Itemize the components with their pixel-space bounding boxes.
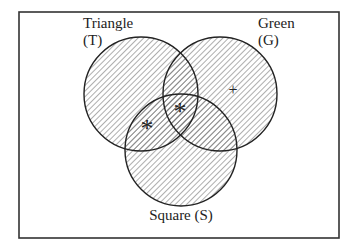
green-label: Green	[258, 15, 295, 31]
triangle-label: Triangle	[83, 15, 134, 31]
triangle-abbrev-label: (T)	[83, 32, 102, 49]
asterisk-marker-ts: *	[141, 114, 154, 143]
green-abbrev-label: (G)	[258, 32, 279, 49]
square-label: Square (S)	[149, 207, 213, 224]
asterisk-marker-tgs: *	[174, 97, 187, 126]
venn-diagram: Triangle (T) Green (G) Square (S) * * +	[0, 0, 355, 252]
plus-marker-g: +	[228, 81, 237, 98]
